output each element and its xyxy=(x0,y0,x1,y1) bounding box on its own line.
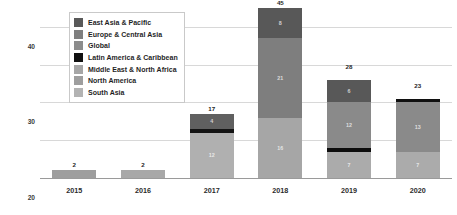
legend-item[interactable]: Europe & Central Asia xyxy=(74,29,178,41)
legend-swatch-icon xyxy=(74,65,83,74)
bar-stack[interactable] xyxy=(52,170,96,178)
bar-stack[interactable]: 412 xyxy=(190,114,234,178)
bar-group[interactable]: 6127282019 xyxy=(327,8,371,178)
bar-segment[interactable]: 12 xyxy=(327,102,371,147)
legend-item[interactable]: Global xyxy=(74,40,178,52)
bar-segment-label: 7 xyxy=(396,162,440,168)
legend-item[interactable]: East Asia & Pacific xyxy=(74,17,178,29)
bar-segment[interactable]: 7 xyxy=(327,152,371,178)
bar-segment[interactable] xyxy=(52,170,96,178)
bar-segment-label: 4 xyxy=(190,118,234,124)
x-axis-line: 0 xyxy=(40,178,452,179)
legend-swatch-icon xyxy=(74,18,83,27)
bar-group[interactable]: 82116452018 xyxy=(258,8,302,178)
legend-item[interactable]: Latin America & Caribbean xyxy=(74,52,178,64)
bar-group[interactable]: 412172017 xyxy=(190,8,234,178)
bar-segment[interactable]: 7 xyxy=(396,152,440,178)
bar-segment[interactable]: 6 xyxy=(327,80,371,103)
bar-stack[interactable]: 137 xyxy=(396,99,440,178)
x-tick-label: 2016 xyxy=(121,186,165,195)
legend-item[interactable]: North America xyxy=(74,75,178,87)
x-tick-label: 2018 xyxy=(258,186,302,195)
x-tick-label: 2019 xyxy=(327,186,371,195)
legend-label: Europe & Central Asia xyxy=(88,31,162,38)
x-tick-label: 2020 xyxy=(396,186,440,195)
bar-segment[interactable] xyxy=(121,170,165,178)
bar-segment-label: 13 xyxy=(396,124,440,130)
legend-swatch-icon xyxy=(74,88,83,97)
bar-stack[interactable] xyxy=(121,170,165,178)
bar-segment-label: 12 xyxy=(190,152,234,158)
bar-segment-label: 12 xyxy=(327,122,371,128)
legend: East Asia & PacificEurope & Central Asia… xyxy=(69,12,185,103)
bar-segment-label: 8 xyxy=(258,20,302,26)
bar-stack[interactable]: 82116 xyxy=(258,8,302,178)
bar-segment[interactable]: 16 xyxy=(258,118,302,178)
legend-item[interactable]: Middle East & North Africa xyxy=(74,63,178,75)
y-tick-label: 20 xyxy=(28,193,35,200)
ai-ethics-principles-chart: Number of New AI Ethics Principles 01020… xyxy=(0,0,457,215)
bar-segment[interactable]: 13 xyxy=(396,102,440,151)
legend-label: South Asia xyxy=(88,89,125,96)
bar-stack[interactable]: 6127 xyxy=(327,80,371,178)
legend-label: North America xyxy=(88,77,136,84)
legend-label: Middle East & North Africa xyxy=(88,66,177,73)
legend-item[interactable]: South Asia xyxy=(74,87,178,99)
bar-total-label: 28 xyxy=(327,63,371,70)
legend-label: Global xyxy=(88,42,110,49)
bar-total-label: 17 xyxy=(190,105,234,112)
bar-segment[interactable]: 12 xyxy=(190,133,234,178)
legend-swatch-icon xyxy=(74,41,83,50)
bar-segment-label: 6 xyxy=(327,88,371,94)
x-tick-label: 2015 xyxy=(52,186,96,195)
legend-swatch-icon xyxy=(74,30,83,39)
y-tick-label: 30 xyxy=(28,118,35,125)
bar-total-label: 45 xyxy=(258,0,302,6)
x-tick-label: 2017 xyxy=(190,186,234,195)
legend-label: Latin America & Caribbean xyxy=(88,54,178,61)
bar-segment-label: 7 xyxy=(327,162,371,168)
bar-group[interactable]: 137232020 xyxy=(396,8,440,178)
bar-segment[interactable]: 4 xyxy=(190,114,234,129)
bar-segment[interactable]: 8 xyxy=(258,8,302,38)
bar-total-label: 2 xyxy=(121,161,165,168)
legend-swatch-icon xyxy=(74,53,83,62)
legend-swatch-icon xyxy=(74,76,83,85)
y-tick-label: 40 xyxy=(28,42,35,49)
bar-total-label: 2 xyxy=(52,161,96,168)
bar-segment-label: 21 xyxy=(258,75,302,81)
bar-segment[interactable]: 21 xyxy=(258,38,302,117)
bar-segment-label: 16 xyxy=(258,145,302,151)
bar-total-label: 23 xyxy=(396,82,440,89)
legend-label: East Asia & Pacific xyxy=(88,19,151,26)
